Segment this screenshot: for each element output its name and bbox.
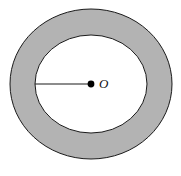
annulus-diagram-canvas xyxy=(0,0,181,176)
center-point-label: O xyxy=(99,77,108,90)
annulus-figure: O xyxy=(0,0,181,176)
center-dot xyxy=(88,81,95,88)
